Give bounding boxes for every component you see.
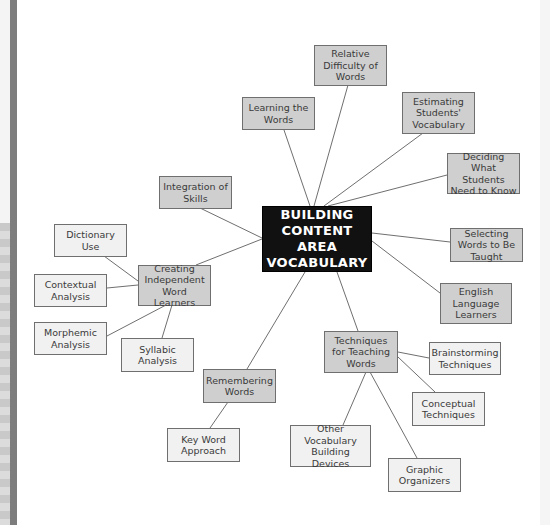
link-remembering — [247, 272, 305, 369]
node-syllabic: Syllabic Analysis — [121, 338, 194, 372]
node-label: Syllabic Analysis — [124, 344, 191, 367]
link-relative-difficulty — [314, 85, 348, 206]
node-label: Brainstorming Techniques — [431, 347, 498, 370]
node-integration: Integration of Skills — [159, 176, 232, 209]
link-creating — [196, 239, 262, 265]
node-label: Techniques for Teaching Words — [327, 335, 395, 370]
node-relative-difficulty: Relative Difficulty of Words — [314, 45, 387, 86]
node-label: Other Vocabulary Building Devices — [293, 423, 368, 469]
node-other-devices: Other Vocabulary Building Devices — [290, 425, 371, 467]
node-label: Dictionary Use — [57, 229, 124, 252]
node-label: Graphic Organizers — [391, 464, 458, 487]
link-syllabic — [162, 305, 172, 338]
node-label: Estimating Students' Vocabulary — [405, 96, 472, 131]
node-label: English Language Learners — [443, 286, 509, 321]
node-keyword: Key Word Approach — [167, 428, 240, 462]
node-label: Remembering Words — [206, 375, 273, 398]
link-dictionary — [104, 256, 138, 281]
center-node: BUILDING CONTENT AREA VOCABULARY — [262, 206, 372, 272]
node-label: Selecting Words to Be Taught — [453, 228, 520, 263]
link-contextual — [107, 285, 138, 288]
link-other-devices — [343, 372, 366, 425]
center-node-label: BUILDING CONTENT AREA VOCABULARY — [265, 207, 369, 271]
node-graphic: Graphic Organizers — [388, 458, 461, 492]
node-morphemic: Morphemic Analysis — [34, 322, 107, 355]
node-techniques: Techniques for Teaching Words — [324, 331, 398, 373]
link-ell — [372, 241, 440, 293]
node-label: Creating Independent Word Learners — [141, 263, 208, 309]
node-deciding: Deciding What Students Need to Know — [447, 153, 520, 194]
link-techniques — [337, 272, 358, 331]
node-dictionary: Dictionary Use — [54, 224, 127, 257]
node-selecting: Selecting Words to Be Taught — [450, 228, 523, 262]
node-label: Morphemic Analysis — [37, 327, 104, 350]
link-selecting — [372, 233, 450, 242]
link-brainstorming — [398, 352, 429, 358]
node-creating: Creating Independent Word Learners — [138, 265, 211, 306]
node-label: Key Word Approach — [170, 434, 237, 457]
node-label: Contextual Analysis — [37, 279, 104, 302]
node-brainstorming: Brainstorming Techniques — [429, 342, 501, 375]
link-graphic — [370, 372, 417, 458]
node-remembering: Remembering Words — [203, 369, 276, 403]
node-label: Learning the Words — [245, 102, 312, 125]
node-contextual: Contextual Analysis — [34, 274, 107, 307]
node-label: Deciding What Students Need to Know — [450, 151, 517, 197]
node-label: Conceptual Techniques — [415, 398, 482, 421]
link-estimating — [324, 133, 423, 206]
link-integration — [200, 208, 262, 238]
node-learning-words: Learning the Words — [242, 97, 315, 130]
node-label: Relative Difficulty of Words — [317, 48, 384, 83]
node-label: Integration of Skills — [162, 181, 229, 204]
link-morphemic — [107, 305, 166, 336]
node-ell: English Language Learners — [440, 283, 512, 324]
node-conceptual: Conceptual Techniques — [412, 392, 485, 426]
node-estimating: Estimating Students' Vocabulary — [402, 92, 475, 134]
link-learning-words — [284, 130, 310, 206]
link-keyword — [210, 402, 228, 428]
